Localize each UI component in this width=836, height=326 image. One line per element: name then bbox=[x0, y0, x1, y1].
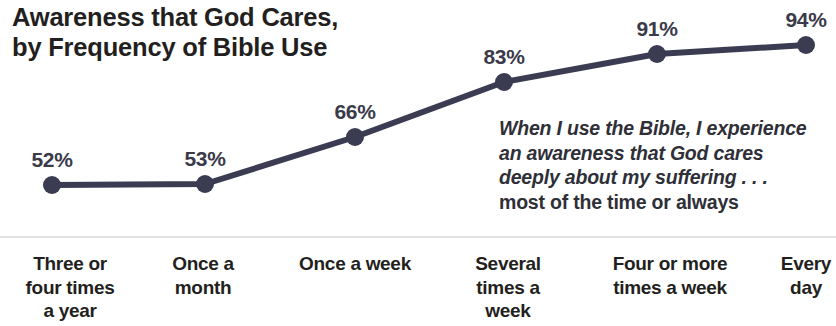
chart-figure: Awareness that God Cares, by Frequency o… bbox=[0, 0, 836, 326]
data-point-label: 94% bbox=[785, 8, 826, 32]
category-label: Four or more times a week bbox=[613, 252, 728, 299]
category-axis: Three or four times a yearOnce a monthOn… bbox=[0, 252, 836, 326]
data-point-marker bbox=[648, 45, 666, 63]
data-point-marker bbox=[797, 36, 815, 54]
data-point-marker bbox=[495, 73, 513, 91]
category-label: Several times a week bbox=[475, 252, 541, 323]
quote-line-1: When I use the Bible, I experience bbox=[499, 116, 829, 141]
category-label: Every day bbox=[781, 252, 831, 299]
data-point-label: 66% bbox=[334, 100, 375, 124]
annotation-quote: When I use the Bible, I experience an aw… bbox=[499, 116, 829, 214]
data-point-marker bbox=[43, 176, 61, 194]
category-label: Once a month bbox=[172, 252, 234, 299]
category-label: Three or four times a year bbox=[26, 252, 115, 323]
quote-line-3: deeply about my suffering . . . bbox=[499, 165, 829, 190]
data-point-marker bbox=[346, 128, 364, 146]
axis-rule bbox=[0, 236, 836, 238]
data-point-marker bbox=[196, 175, 214, 193]
data-point-label: 53% bbox=[184, 147, 225, 171]
quote-line-2: an awareness that God cares bbox=[499, 141, 829, 166]
quote-qualifier: most of the time or always bbox=[499, 190, 829, 215]
data-point-label: 91% bbox=[636, 17, 677, 41]
data-point-label: 83% bbox=[483, 45, 524, 69]
data-point-label: 52% bbox=[31, 148, 72, 172]
category-label: Once a week bbox=[299, 252, 411, 276]
